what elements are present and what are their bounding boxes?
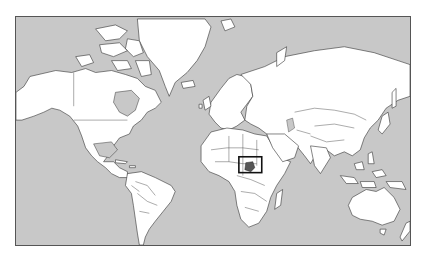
sakhalin [392, 88, 396, 108]
world-map [15, 16, 411, 246]
world-map-svg [16, 17, 410, 245]
